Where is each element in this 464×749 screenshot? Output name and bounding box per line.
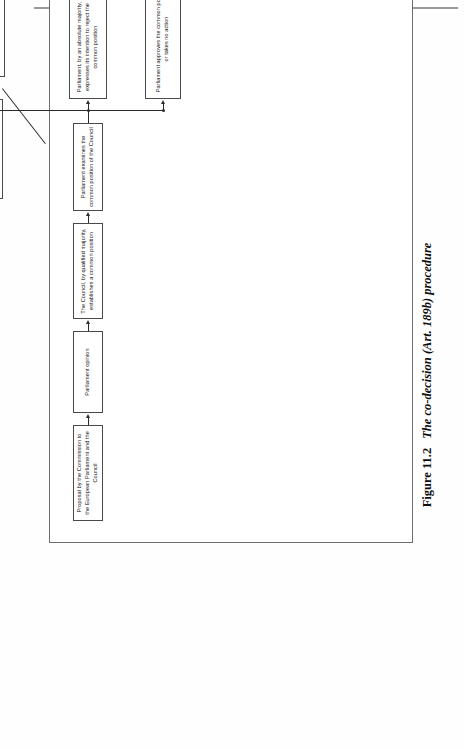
arrow-head (86, 414, 90, 418)
flow-node-commission-positive-opinion: The Commission delivers a positive opini… (0, 0, 5, 77)
flow-node-parliament-intention-reject: Parliament, by an absolute majority, exp… (69, 0, 107, 99)
flow-node-parliament-examines: Parliament examines the common position … (73, 123, 103, 211)
arrow-head (161, 100, 165, 104)
connector (88, 110, 163, 111)
connector (0, 110, 33, 111)
connector (88, 215, 89, 223)
arrow-head (86, 320, 90, 324)
figure-title: The co-decision (Art. 189b) procedure (420, 242, 434, 438)
flow-node-label: Proposal by the Commission to the Europe… (76, 429, 100, 517)
flow-node-label: Parliament examines the common position … (80, 127, 96, 207)
figure-caption: Figure 11.2The co-decision (Art. 189b) p… (420, 242, 435, 507)
connector-diagonal (2, 88, 46, 144)
flow-node-label: Parliament opinion (84, 335, 92, 409)
connector (88, 111, 89, 123)
flow-node-label: The Council, by qualified majority, esta… (80, 227, 96, 315)
connector (88, 323, 89, 331)
junction-dot (87, 109, 90, 112)
connector (88, 417, 89, 425)
flow-node-council-common-position: The Council, by qualified majority, esta… (73, 223, 103, 319)
connector (33, 110, 88, 111)
flow-node-label: Parliament approves the common position … (155, 0, 171, 95)
arrow-head (86, 212, 90, 216)
diagram-stage: Proposal by the Commission to the Europe… (49, 0, 415, 543)
arrow-head (86, 100, 90, 104)
figure-page: Proposal by the Commission to the Europe… (0, 0, 464, 749)
junction-dot (162, 109, 165, 112)
flow-node-parliament-proposes-amendments: Parliament, by an absolute majority, pro… (0, 99, 3, 199)
flow-node-parliament-opinion: Parliament opinion (73, 331, 103, 413)
flow-node-parliament-approves: Parliament approves the common position … (145, 0, 181, 99)
flow-node-proposal: Proposal by the Commission to the Europe… (73, 425, 103, 521)
figure-number: Figure 11.2 (420, 447, 434, 507)
flow-node-label: Parliament, by an absolute majority, exp… (76, 0, 100, 95)
